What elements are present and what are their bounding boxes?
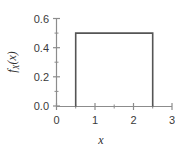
uniform-pdf-chart: 0.6 0.4 0.2 0.0 fX(x) 0 1 2 xyxy=(0,0,175,151)
y-tick-label-0.6: 0.6 xyxy=(34,13,49,25)
chart-screenshot: 0.6 0.4 0.2 0.0 fX(x) 0 1 2 xyxy=(0,0,175,151)
x-tick-label-1: 1 xyxy=(92,114,98,126)
y-axis-title-arg: (x) xyxy=(5,51,19,64)
x-axis-title: x xyxy=(97,133,104,147)
y-tick-label-0.2: 0.2 xyxy=(34,71,49,83)
svg-text:fX(x): fX(x) xyxy=(5,51,21,73)
x-tick-label-3: 3 xyxy=(169,114,175,126)
y-axis-title: fX(x) xyxy=(5,51,21,73)
chart-background xyxy=(0,0,175,151)
x-tick-label-2: 2 xyxy=(130,114,136,126)
y-tick-label-0.4: 0.4 xyxy=(34,42,49,54)
y-tick-label-0.0: 0.0 xyxy=(34,100,49,112)
x-tick-label-0: 0 xyxy=(53,114,59,126)
